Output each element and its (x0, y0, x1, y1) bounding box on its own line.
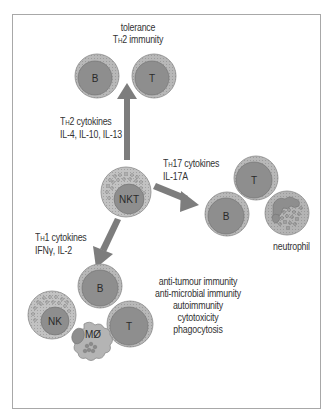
outcome-item: anti-microbial immunity (145, 288, 251, 300)
b-cell-right: B (205, 192, 249, 236)
t-cell-top: T (132, 54, 176, 98)
th2-cytokines-label: TH2 cytokines IL-4, IL-10, IL-13 (60, 116, 122, 141)
t-cell-right: T (234, 156, 278, 200)
diagram-canvas: B T NKT T B (0, 0, 332, 417)
svg-text:MØ: MØ (85, 329, 101, 340)
th1-outcomes-list: anti-tumour immunity anti-microbial immu… (145, 276, 251, 336)
th17-cytokines-label: TH17 cytokines IL-17A (163, 158, 219, 183)
neutrophil-label: neutrophil (273, 241, 310, 253)
macrophage-cell: MØ (70, 322, 113, 360)
arrow-down-th1 (93, 218, 121, 268)
neutrophil-cell (265, 191, 309, 235)
b-cell-top: B (75, 54, 119, 98)
svg-text:T: T (126, 321, 132, 332)
outcome-item: phagocytosis (145, 324, 251, 336)
nkt-cell: NKT (101, 167, 151, 217)
nk-cell: NK (28, 291, 76, 339)
arrow-right-th17 (153, 183, 199, 212)
svg-text:B: B (223, 211, 230, 222)
th1-cytokines-label: TH1 cytokines IFNγ, IL-2 (35, 232, 87, 257)
svg-text:B: B (97, 283, 104, 294)
svg-text:NK: NK (48, 316, 62, 327)
outcome-item: anti-tumour immunity (145, 276, 251, 288)
outcome-item: autoimmunity (145, 300, 251, 312)
svg-text:T: T (149, 73, 155, 84)
b-cell-bottom: B (78, 264, 122, 308)
th2-outcome-label: tolerance TH2 immunity (112, 22, 165, 47)
svg-text:NKT: NKT (119, 194, 139, 205)
svg-text:T: T (251, 175, 257, 186)
svg-text:B: B (92, 73, 99, 84)
outcome-item: cytotoxicity (145, 312, 251, 324)
